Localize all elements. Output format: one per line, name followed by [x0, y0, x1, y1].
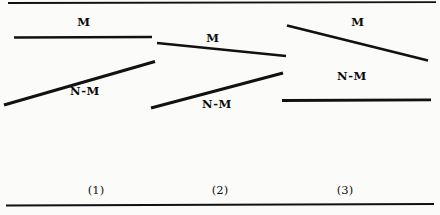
panel-1-n-minus-m-curve-label: N-M — [70, 84, 100, 98]
panel-3-m-curve-label: M — [351, 15, 364, 29]
panel-3-m-curve — [287, 26, 428, 61]
panel-1-m-curve-label: M — [77, 15, 90, 29]
panel-2-caption: (2) — [212, 183, 228, 197]
panel-1-m-curve — [14, 37, 152, 38]
panel-3-n-minus-m-curve-label: N-M — [337, 69, 367, 83]
top-rule — [8, 2, 436, 3]
panel-2-m-curve — [157, 43, 286, 56]
panel-1-caption: (1) — [88, 183, 104, 197]
panel-2-n-minus-m-curve-label: N-M — [202, 97, 232, 111]
figure-container: MN-M(1)MN-M(2)MN-M(3) — [0, 0, 440, 215]
panel-2-m-curve-label: M — [206, 31, 219, 45]
panel-3-caption: (3) — [337, 183, 353, 197]
panel-3-n-minus-m-curve — [282, 100, 431, 101]
bottom-rule — [6, 204, 434, 206]
